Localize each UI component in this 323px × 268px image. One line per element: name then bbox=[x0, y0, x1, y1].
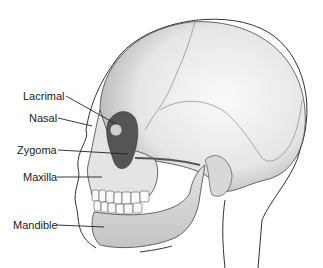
label-zygoma: Zygoma bbox=[17, 144, 57, 156]
leader-line-zygoma bbox=[58, 150, 128, 154]
label-nasal: Nasal bbox=[29, 112, 57, 124]
skull-diagram: Lacrimal Nasal Zygoma Maxilla Mandible bbox=[0, 0, 323, 268]
label-mandible: Mandible bbox=[13, 219, 58, 231]
leader-line-mandible bbox=[57, 225, 104, 227]
label-maxilla: Maxilla bbox=[23, 171, 57, 183]
leader-line-lacrimal bbox=[66, 96, 116, 124]
leader-line-nasal bbox=[58, 118, 92, 126]
label-lacrimal: Lacrimal bbox=[23, 90, 65, 102]
